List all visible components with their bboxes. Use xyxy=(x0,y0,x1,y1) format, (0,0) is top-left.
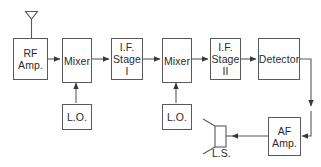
block-af-amp-line-1: Amp. xyxy=(272,137,297,149)
block-if-stage-2-line-2: II xyxy=(222,65,228,77)
block-mixer-2-line-0: Mixer xyxy=(164,55,190,67)
loudspeaker-label: L.S. xyxy=(212,147,231,159)
wire-detector-to-afamp xyxy=(300,59,311,136)
block-mixer-1-line-0: Mixer xyxy=(64,55,90,67)
block-if-stage-1[interactable]: I.F. Stage I xyxy=(111,38,143,80)
block-detector-line-0: Detector xyxy=(259,53,299,65)
block-detector[interactable]: Detector xyxy=(258,38,300,80)
block-lo-2-line-0: L.O. xyxy=(167,111,187,123)
block-mixer-1[interactable]: Mixer xyxy=(62,38,92,83)
block-if-stage-2-line-0: I.F. xyxy=(218,41,232,53)
block-lo-2[interactable]: L.O. xyxy=(162,104,192,130)
block-af-amp[interactable]: AF Amp. xyxy=(268,117,301,156)
block-af-amp-line-0: AF xyxy=(278,125,292,137)
block-lo-1[interactable]: L.O. xyxy=(62,104,92,130)
block-lo-1-line-0: L.O. xyxy=(67,111,87,123)
block-diagram-canvas: RF Amp. Mixer I.F. Stage I Mixer I.F. St… xyxy=(0,0,321,167)
block-if-stage-2[interactable]: I.F. Stage II xyxy=(210,38,241,80)
block-rf-amp[interactable]: RF Amp. xyxy=(13,38,48,80)
block-if-stage-2-line-1: Stage xyxy=(212,53,240,65)
block-mixer-2[interactable]: Mixer xyxy=(162,38,192,83)
block-if-stage-1-line-0: I.F. xyxy=(120,41,134,53)
block-if-stage-1-line-1: Stage xyxy=(113,53,141,65)
antenna-icon xyxy=(26,12,38,41)
block-if-stage-1-line-2: I xyxy=(125,65,128,77)
block-rf-amp-line-1: Amp. xyxy=(18,59,43,71)
block-rf-amp-line-0: RF xyxy=(23,47,37,59)
